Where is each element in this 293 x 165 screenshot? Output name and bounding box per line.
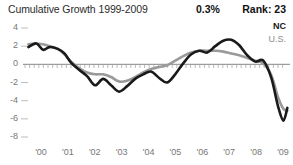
y-axis-tick-2: 2 bbox=[2, 41, 18, 50]
x-axis-tick-02: '02 bbox=[83, 148, 107, 157]
y-axis-tick-4: 4 bbox=[2, 23, 18, 32]
x-axis-tick-09: '09 bbox=[271, 148, 293, 157]
y-axis-tick-neg4: -4 bbox=[2, 96, 18, 105]
y-axis-tick-neg8: -8 bbox=[2, 132, 18, 141]
x-axis-tick-08: '08 bbox=[244, 148, 268, 157]
plot-area bbox=[0, 0, 293, 165]
y-axis-tick-neg6: -6 bbox=[2, 114, 18, 123]
x-axis-tick-06: '06 bbox=[190, 148, 214, 157]
y-axis-tick-neg2: -2 bbox=[2, 78, 18, 87]
series-line-nc bbox=[28, 39, 287, 120]
y-axis-tick-dashes bbox=[21, 28, 28, 137]
cumulative-growth-chart-card: Cumulative Growth 1999-2009 0.3% Rank: 2… bbox=[0, 0, 293, 165]
x-axis-tick-03: '03 bbox=[110, 148, 134, 157]
line-chart-svg bbox=[0, 0, 293, 165]
x-axis-tick-07: '07 bbox=[217, 148, 241, 157]
y-axis-tick-0: 0 bbox=[2, 59, 18, 68]
x-axis-tick-05: '05 bbox=[163, 148, 187, 157]
x-axis-tick-01: '01 bbox=[56, 148, 80, 157]
x-axis-tick-00: '00 bbox=[29, 148, 53, 157]
x-axis-tick-04: '04 bbox=[137, 148, 161, 157]
